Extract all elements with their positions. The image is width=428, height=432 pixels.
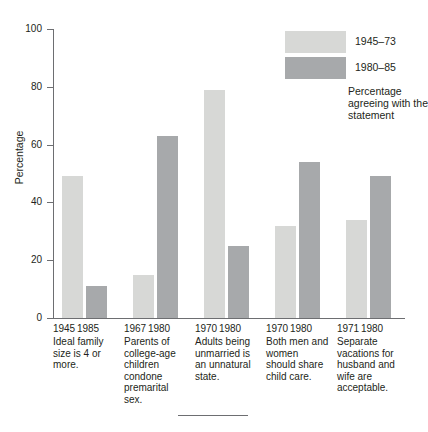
y-tick-80: 80 [0,87,53,88]
group-year: 1985 [73,322,103,335]
group-years: 19701980 [195,322,261,335]
legend-swatch-1945-73 [285,31,346,53]
y-tick-label: 0 [16,313,42,323]
legend-swatch-1980-85 [285,57,346,79]
bar [299,162,320,318]
bar [275,226,296,318]
y-tick-mark [47,260,53,261]
y-tick-label: 100 [16,24,42,34]
group-label: 19701980Adults being unmarried is an unn… [195,322,261,382]
y-tick-mark [47,145,53,146]
y-tick-0: 0 [0,318,53,319]
y-axis-line [53,29,54,318]
y-tick-60: 60 [0,145,53,146]
y-tick-mark [47,202,53,203]
y-axis-title: Percentage [14,108,25,208]
y-tick-label: 80 [16,82,42,92]
group-label: 19701980Both men and women should share … [266,322,330,382]
bar [228,246,249,318]
group-statement: Both men and women should share child ca… [266,336,330,382]
group-year: 1980 [144,322,174,335]
bar [204,90,225,318]
bar [86,286,107,318]
group-statement: Parents of college-age children condone … [124,336,188,406]
legend-caption: Percentage agreeing with the statement [348,85,428,121]
group-year: 1980 [286,322,316,335]
group-label: 19711980Separate vacations for husband a… [337,322,403,394]
group-statement: Separate vacations for husband and wife … [337,336,403,394]
bar [346,220,367,318]
group-year: 1980 [215,322,245,335]
group-years: 19451985 [53,322,115,335]
y-tick-mark [47,87,53,88]
bottom-rule [178,415,248,416]
group-label: 19671980Parents of college-age children … [124,322,188,406]
group-statement: Adults being unmarried is an unnatural s… [195,336,261,382]
bar [133,275,154,318]
group-years: 19671980 [124,322,188,335]
group-years: 19711980 [337,322,403,335]
legend-label-1980-85: 1980–85 [355,62,396,73]
bar [370,176,391,318]
bar [62,176,83,318]
group-years: 19701980 [266,322,330,335]
y-tick-20: 20 [0,260,53,261]
group-statement: Ideal family size is 4 or more. [53,336,115,371]
bar [157,136,178,318]
y-tick-label: 20 [16,255,42,265]
group-year: 1980 [357,322,387,335]
x-axis-line [53,318,405,319]
legend-label-1945-73: 1945–73 [355,36,396,47]
y-tick-mark [47,29,53,30]
y-tick-40: 40 [0,202,53,203]
group-label: 19451985Ideal family size is 4 or more. [53,322,115,371]
y-tick-100: 100 [0,29,53,30]
